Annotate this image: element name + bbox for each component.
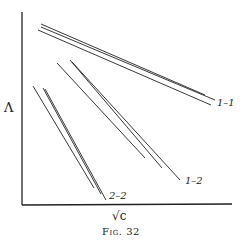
y-axis-label: Λ — [4, 100, 13, 115]
group-1-1-lines — [38, 24, 215, 105]
label-1-2: 1–2 — [185, 175, 203, 186]
x-axis-label: √c — [112, 209, 126, 223]
label-1-1: 1–1 — [217, 97, 235, 108]
group-2-2-lines — [33, 86, 106, 200]
figure-caption: Fig. 32 — [102, 226, 140, 237]
x-axis — [22, 204, 232, 205]
label-2-2: 2–2 — [109, 190, 127, 201]
